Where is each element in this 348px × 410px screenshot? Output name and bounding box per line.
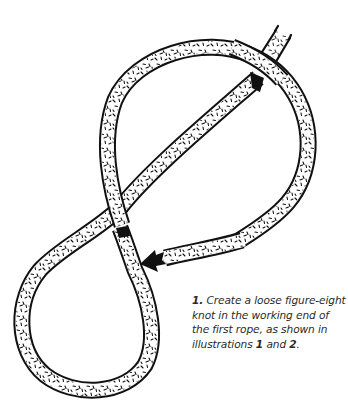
caption-text-and: and — [263, 338, 289, 350]
illustration-ref-2: 2 — [289, 338, 296, 350]
rope-working-end — [163, 240, 244, 258]
step-number: 1. — [192, 294, 203, 306]
direction-arrow-icon — [140, 250, 166, 272]
caption-text-end: . — [297, 338, 300, 350]
instruction-caption: 1. Create a loose figure-eight knot in t… — [192, 293, 348, 351]
